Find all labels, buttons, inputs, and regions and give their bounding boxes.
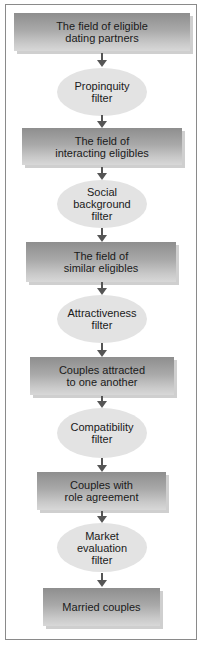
node-similar-eligibles: The field of similar eligibles (26, 242, 176, 282)
node-couples-attracted: Couples attracted to one another (30, 357, 174, 395)
arrow-down-icon (97, 167, 107, 180)
arrow-down-icon (97, 282, 107, 295)
node-married-couples: Married couples (43, 588, 160, 626)
node-label: The field of similar eligibles (64, 250, 139, 274)
filter-propinquity: Propinquity filter (57, 68, 147, 116)
node-label: Couples with role agreement (65, 479, 139, 503)
arrow-down-icon (97, 53, 107, 67)
node-label: Couples attracted to one another (59, 364, 145, 388)
arrow-down-icon (97, 228, 107, 242)
arrow-down-icon (97, 573, 107, 587)
filter-label: Compatibility filter (71, 421, 134, 445)
node-eligible-dating-partners: The field of eligible dating partners (14, 13, 190, 51)
filter-label: Social background filter (73, 186, 131, 222)
arrow-down-icon (97, 343, 107, 357)
arrow-down-icon (97, 115, 107, 128)
node-label: The field of eligible dating partners (56, 20, 148, 44)
filter-attractiveness: Attractiveness filter (57, 295, 147, 343)
arrow-down-icon (97, 396, 107, 408)
filter-compatibility: Compatibility filter (57, 408, 147, 458)
node-label: Married couples (62, 601, 140, 613)
node-interacting-eligibles: The field of interacting eligibles (22, 128, 182, 165)
filter-market-evaluation: Market evaluation filter (57, 523, 147, 572)
arrow-down-icon (97, 458, 107, 472)
arrow-down-icon (97, 511, 107, 523)
filter-label: Market evaluation filter (77, 530, 127, 566)
filter-label: Attractiveness filter (67, 307, 136, 331)
filter-label: Propinquity filter (74, 80, 129, 104)
filter-social-background: Social background filter (57, 180, 147, 228)
node-role-agreement: Couples with role agreement (37, 472, 166, 510)
node-label: The field of interacting eligibles (55, 135, 149, 159)
